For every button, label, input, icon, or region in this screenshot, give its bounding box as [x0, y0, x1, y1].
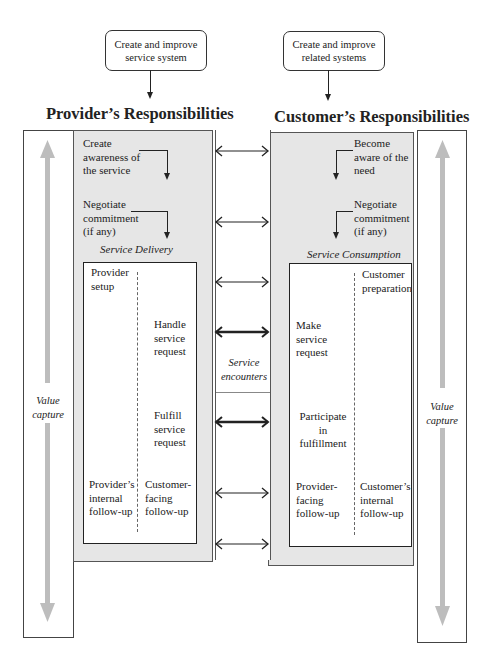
provider-value-capture-arrow-icon	[23, 130, 73, 640]
double-arrow-icon	[213, 415, 271, 429]
arrow-down-icon	[164, 232, 170, 239]
customer-step-negotiate-arrow	[336, 211, 353, 234]
provider-top-box: Create and improve service system	[105, 30, 207, 71]
double-arrow-icon	[213, 144, 271, 158]
customer-top-box: Create and improve related systems	[283, 31, 385, 71]
double-arrow-icon	[213, 486, 271, 500]
customer-step-aware: Become aware of the need	[354, 137, 414, 178]
handle-service-request: Handle service request	[154, 318, 194, 359]
provider-title: Provider’s Responsibilities	[46, 104, 234, 124]
double-arrow-icon	[213, 215, 271, 229]
service-encounters-divider	[216, 392, 270, 393]
service-delivery-label: Service Delivery	[100, 243, 173, 257]
provider-internal-followup: Provider’s internal follow-up	[89, 478, 135, 519]
double-arrow-icon	[213, 325, 271, 339]
make-service-request: Make service request	[296, 319, 344, 360]
customer-preparation: Customer preparation	[362, 268, 410, 295]
arrow-down-icon	[325, 94, 331, 101]
arrow-down-icon	[147, 92, 153, 99]
customer-top-box-text: Create and improve related systems	[284, 38, 384, 64]
provider-step-negotiate-arrow	[131, 211, 168, 234]
customer-value-capture-label: Value capture	[424, 400, 460, 427]
provider-step-awareness-arrow	[139, 150, 168, 175]
arrow-down-icon	[164, 173, 170, 180]
participate-in-fulfillment: Participate in fulfillment	[296, 410, 350, 451]
customer-step-aware-arrow	[336, 150, 353, 175]
fulfill-service-request: Fulfill service request	[154, 409, 194, 450]
customer-value-capture-arrow-icon	[417, 130, 467, 642]
service-consumption-label: Service Consumption	[307, 248, 401, 262]
provider-facing-followup: Provider-facing follow-up	[296, 480, 346, 521]
service-consumption-divider	[354, 273, 355, 535]
customer-facing-followup: Customer-facing follow-up	[145, 478, 191, 519]
service-encounters-label: Service encounters	[218, 356, 270, 384]
double-arrow-icon	[213, 537, 271, 551]
provider-top-connector	[150, 70, 151, 92]
service-delivery-divider	[137, 272, 138, 532]
provider-value-capture-label: Value capture	[30, 394, 66, 421]
double-arrow-icon	[213, 275, 271, 289]
provider-setup: Provider setup	[91, 266, 135, 293]
arrow-down-icon	[333, 232, 339, 239]
provider-top-box-text: Create and improve service system	[106, 38, 206, 64]
customer-title: Customer’s Responsibilities	[274, 107, 469, 127]
customer-internal-followup: Customer’s internal follow-up	[360, 480, 410, 521]
customer-top-connector	[328, 70, 329, 95]
arrow-down-icon	[333, 173, 339, 180]
customer-step-negotiate: Negotiate commitment (if any)	[354, 198, 414, 239]
